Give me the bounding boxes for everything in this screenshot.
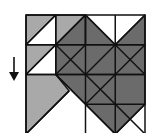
arrow-down-icon — [9, 57, 19, 81]
triangle-grid-diagram — [0, 0, 154, 133]
grid-lines — [26, 15, 145, 133]
